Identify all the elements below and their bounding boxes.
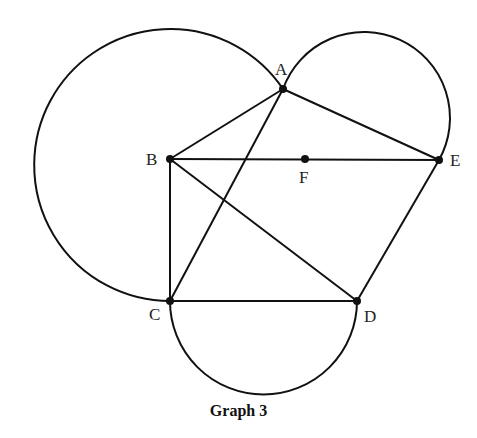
label-f: F (299, 168, 308, 187)
label-e: E (450, 151, 460, 170)
figure-caption: Graph 3 (0, 402, 477, 420)
point-a (279, 85, 287, 93)
segment-ae (283, 89, 439, 160)
point-c (166, 297, 174, 305)
point-f (301, 155, 309, 163)
segment-de (357, 160, 439, 301)
segment-ab (170, 89, 283, 159)
point-d (353, 297, 361, 305)
semicircle-ae-arc (283, 32, 450, 160)
semicircle-cd-arc (170, 301, 357, 395)
geometry-figure: A B C D E F (0, 0, 477, 438)
label-d: D (364, 307, 376, 326)
segment-ac (170, 89, 283, 301)
label-a: A (275, 60, 288, 79)
point-e (435, 156, 443, 164)
point-b (166, 155, 174, 163)
left-arc (34, 29, 283, 301)
segment-bd (170, 159, 357, 301)
label-c: C (149, 305, 160, 324)
label-b: B (146, 150, 157, 169)
